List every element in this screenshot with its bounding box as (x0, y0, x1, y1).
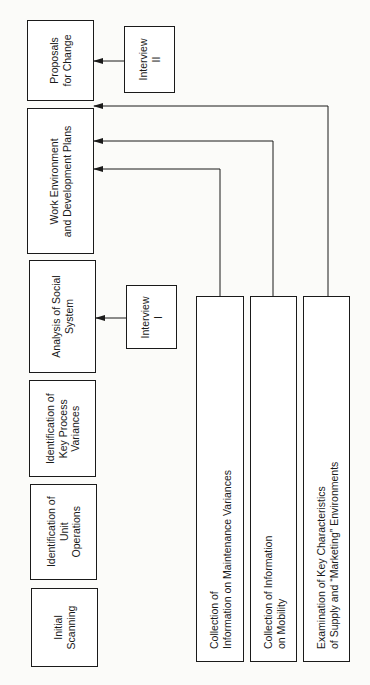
label: Proposals for Change (48, 35, 73, 87)
box-interview-1: Interview I (126, 285, 177, 349)
label: Examination of Key Characteristics of Su… (314, 462, 339, 649)
box-analysis-social-system: Analysis of Social System (29, 260, 96, 373)
box-mobility: Collection of Information on Mobility (250, 296, 297, 662)
label: Work Environment and Development Plans (48, 125, 73, 237)
label: Identification of Key Process Variances (44, 393, 82, 464)
box-maintenance-variances: Collection of Information on Maintenance… (196, 296, 244, 662)
box-initial-scanning: Initial Scanning (31, 588, 98, 667)
label: Analysis of Social System (50, 275, 75, 357)
box-supply-marketing-environments: Examination of Key Characteristics of Su… (303, 296, 350, 662)
box-key-process-variances: Identification of Key Process Variances (29, 380, 96, 477)
arrow-maintenance-to-work-env (94, 169, 220, 296)
label: Identification of Unit Operations (45, 497, 83, 568)
arrow-environments-to-work-env (94, 106, 328, 296)
box-work-environment: Work Environment and Development Plans (27, 108, 94, 254)
label: Initial Scanning (52, 606, 77, 650)
label: Collection of Information on Maintenance… (208, 470, 233, 649)
box-proposals-for-change: Proposals for Change (27, 20, 94, 101)
box-unit-operations: Identification of Unit Operations (30, 484, 97, 580)
label: Interview II (137, 38, 162, 80)
label: Interview I (139, 296, 164, 338)
arrow-mobility-to-work-env (94, 141, 273, 296)
label: Collection of Information on Mobility (261, 536, 286, 649)
box-interview-2: Interview II (124, 26, 175, 93)
